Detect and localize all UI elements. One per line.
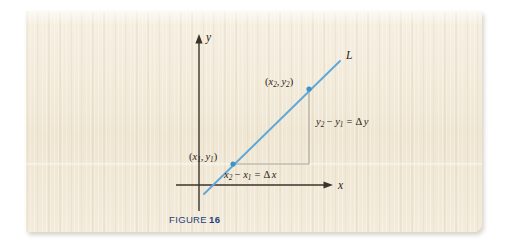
figure-caption-number: 16: [209, 214, 220, 225]
point-marker-1: [230, 161, 235, 166]
figure-screenshot: y x L (x1,y1): [0, 0, 508, 249]
dx-delta: Δ: [263, 169, 270, 180]
dy-sub-a: 2: [321, 121, 325, 129]
textbook-page-panel: y x L (x1,y1): [26, 11, 482, 232]
delta-x-annotation: x2−x1=Δx: [223, 169, 277, 182]
figure-caption: FIGURE16: [169, 214, 220, 225]
p2-comma: ,: [277, 76, 280, 87]
figure-caption-word: FIGURE: [169, 214, 207, 225]
p2-close: ): [290, 76, 294, 88]
dy-minus: −: [327, 116, 333, 127]
p1-close: ): [214, 151, 218, 163]
svg-text:(x2,y2): (x2,y2): [265, 76, 294, 89]
coordinate-diagram: y x L (x1,y1): [26, 11, 482, 232]
dy-delta: Δ: [355, 116, 362, 127]
dx-sub-b: 1: [248, 174, 252, 182]
dx-delta-var: x: [271, 169, 277, 180]
dx-minus: −: [235, 169, 241, 180]
point-2-label: (x2,y2): [265, 76, 294, 89]
y-axis-label: y: [205, 31, 212, 44]
p1-comma: ,: [201, 151, 204, 162]
line-label-L: L: [345, 49, 352, 61]
delta-y-annotation: y2−y1=Δy: [315, 116, 369, 129]
svg-text:(x1,y1): (x1,y1): [189, 151, 218, 164]
triangle-guides: [233, 89, 309, 164]
dy-delta-var: y: [363, 116, 369, 127]
svg-text:y2−y1=Δy: y2−y1=Δy: [315, 116, 369, 129]
dx-equals: =: [254, 169, 260, 180]
dx-sub-a: 2: [229, 174, 233, 182]
dy-equals: =: [346, 116, 352, 127]
svg-text:x2−x1=Δx: x2−x1=Δx: [223, 169, 277, 182]
dy-sub-b: 1: [340, 121, 344, 129]
x-axis-label: x: [337, 179, 344, 191]
point-marker-2: [306, 86, 311, 91]
point-1-label: (x1,y1): [189, 151, 218, 164]
